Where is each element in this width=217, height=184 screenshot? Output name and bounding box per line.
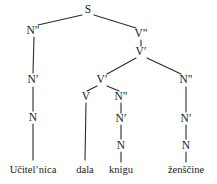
edge-vbar-upper-to-vbar-lower [107, 58, 136, 74]
node-verb-head: V [82, 91, 90, 103]
node-vp-bar-lower: V′ [96, 74, 107, 86]
edge-subjnp-to-subjnbar [33, 37, 34, 73]
node-vp-max: V" [134, 28, 147, 40]
edge-s-to-vp [94, 15, 136, 28]
node-subject-np-head: N [29, 112, 37, 124]
node-object-np-head: N [117, 140, 125, 152]
node-subject-np-max: N" [26, 25, 39, 37]
node-indirect-np-bar: N′ [180, 113, 191, 125]
node-vp-bar-upper: V′ [135, 46, 146, 58]
node-subject-np-bar: N′ [27, 74, 38, 86]
edge-s-to-subject-np [38, 15, 82, 25]
node-indirect-np-head: N [182, 140, 190, 152]
leaf-object-word: knigu [109, 165, 133, 176]
node-indirect-np-max: N" [179, 74, 192, 86]
edge-verb-to-verb-word [85, 103, 86, 160]
leaf-verb-word: dala [76, 165, 94, 176]
node-object-np-bar: N′ [115, 113, 126, 125]
edge-vbar-upper-to-indirect-np [147, 58, 181, 74]
node-s: S [85, 4, 92, 16]
node-object-np-max: N" [114, 91, 127, 103]
leaf-indirect-object-word: ženščine [168, 165, 204, 176]
leaf-subject-word: Učitel’nica [10, 165, 57, 176]
syntax-tree-figure: S N" N′ N V" V′ V′ V N" N′ N N" N′ N Uči… [0, 0, 217, 184]
